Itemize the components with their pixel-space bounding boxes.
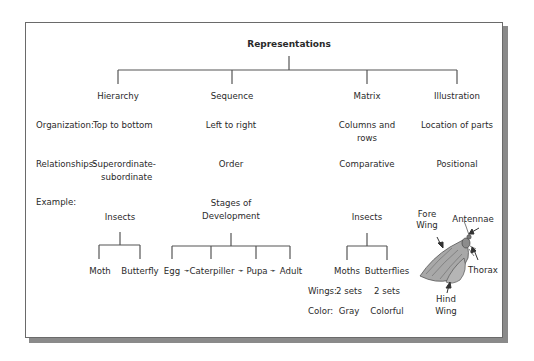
hierarchy-example-root: Insects xyxy=(105,212,135,223)
matrix-row-label: Color: xyxy=(308,306,333,317)
arrow-right-icon: ➛ xyxy=(270,266,276,277)
diagram-title: Representations xyxy=(247,39,331,50)
organization-illustration: Location of parts xyxy=(421,120,493,131)
label-antennae: Antennae xyxy=(452,214,493,225)
type-sequence: Sequence xyxy=(211,91,253,102)
label-hind-wing-line2: Wing xyxy=(435,306,457,317)
type-illustration: Illustration xyxy=(434,91,480,102)
relationships-hierarchy-line2: subordinate xyxy=(101,172,152,183)
organization-sequence: Left to right xyxy=(206,120,256,131)
matrix-example-root: Insects xyxy=(352,212,382,223)
sequence-step: Caterpiller xyxy=(190,266,235,277)
arrow-right-icon: ➛ xyxy=(238,266,244,277)
sequence-step: Adult xyxy=(280,266,302,277)
relationships-hierarchy-line1: Superordinate- xyxy=(92,159,156,170)
sequence-step: Pupa xyxy=(246,266,267,277)
label-thorax: Thorax xyxy=(468,265,498,276)
relationships-illustration: Positional xyxy=(436,159,477,170)
hierarchy-example-child: Butterfly xyxy=(121,266,158,277)
sequence-example-root-line2: Development xyxy=(202,211,260,222)
row-label-organization: Organization: xyxy=(36,120,94,131)
row-label-example: Example: xyxy=(36,197,76,208)
organization-hierarchy: Top to bottom xyxy=(93,120,153,131)
type-matrix: Matrix xyxy=(353,91,380,102)
matrix-cell: 2 sets xyxy=(336,286,362,297)
sequence-example-root-line1: Stages of xyxy=(211,198,251,209)
sequence-step: Egg xyxy=(164,266,180,277)
label-fore-wing-line2: Wing xyxy=(416,220,438,231)
matrix-column-header: Moths xyxy=(334,266,360,277)
matrix-cell: Colorful xyxy=(370,306,403,317)
organization-matrix-line2: rows xyxy=(357,133,377,144)
label-fore-wing-line1: Fore xyxy=(418,209,437,220)
matrix-column-header: Butterflies xyxy=(365,266,409,277)
matrix-cell: Gray xyxy=(339,306,360,317)
row-label-relationships: Relationships: xyxy=(36,159,96,170)
relationships-sequence: Order xyxy=(219,159,243,170)
hierarchy-example-child: Moth xyxy=(89,266,111,277)
organization-matrix-line1: Columns and xyxy=(339,120,395,131)
relationships-matrix: Comparative xyxy=(339,159,394,170)
matrix-cell: 2 sets xyxy=(374,286,400,297)
label-hind-wing-line1: Hind xyxy=(436,294,456,305)
type-hierarchy: Hierarchy xyxy=(97,91,139,102)
matrix-row-label: Wings: xyxy=(308,286,337,297)
